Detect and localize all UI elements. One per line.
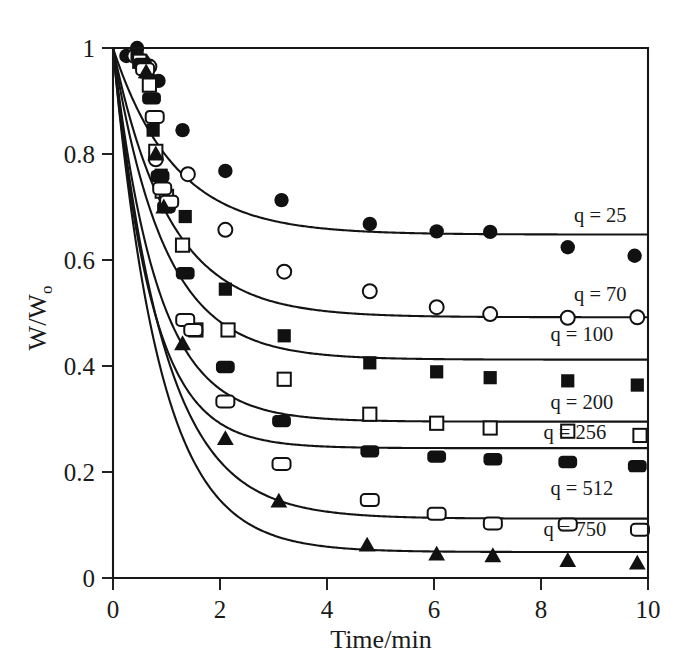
series-annotation-label: q = 200	[550, 391, 613, 414]
data-point-marker	[561, 374, 574, 387]
data-point-marker	[142, 92, 161, 104]
data-point-marker	[278, 373, 291, 386]
x-axis-tick-label: 0	[107, 596, 120, 623]
data-point-marker	[147, 124, 160, 137]
data-point-marker	[627, 249, 641, 263]
data-point-marker	[430, 417, 443, 430]
x-axis-title: Time/min	[330, 625, 432, 654]
data-point-marker	[151, 170, 170, 182]
data-point-marker	[217, 430, 234, 445]
data-point-marker	[278, 329, 291, 342]
y-axis-tick-label: 0.4	[64, 353, 96, 380]
svg-text:W/Wo: W/Wo	[23, 286, 56, 351]
data-point-marker	[428, 546, 445, 561]
x-axis-tick-label: 8	[535, 596, 548, 623]
series-label-layer: q = 25q = 70q = 100q = 200q = 256q = 512…	[543, 204, 626, 541]
data-point-marker	[484, 371, 497, 384]
x-axis-tick-label: 6	[428, 596, 441, 623]
data-point-marker	[558, 456, 577, 468]
y-axis-title-subscript: o	[37, 286, 56, 295]
series-annotation-label: q = 512	[550, 477, 613, 500]
data-point-marker	[360, 445, 379, 457]
data-point-marker	[272, 415, 291, 427]
data-point-marker	[561, 240, 575, 254]
y-axis-tick-label: 0	[83, 565, 96, 592]
figure-chart-weight-loss-vs-time: 00.20.40.60.810246810 q = 25q = 70q = 10…	[0, 0, 694, 670]
data-point-marker	[631, 378, 644, 391]
scatter-plot-canvas: 00.20.40.60.810246810 q = 25q = 70q = 10…	[0, 0, 694, 670]
data-point-marker	[428, 508, 446, 520]
data-point-marker	[483, 453, 502, 465]
data-point-marker	[484, 547, 501, 562]
data-point-marker	[146, 111, 164, 123]
data-point-marker	[361, 494, 379, 506]
data-point-marker	[181, 167, 195, 181]
data-point-marker	[184, 324, 202, 336]
data-point-marker	[216, 396, 234, 408]
data-point-marker	[633, 429, 646, 442]
data-point-marker	[631, 524, 649, 536]
data-point-marker	[153, 182, 171, 194]
data-point-marker	[143, 79, 156, 92]
data-point-marker	[175, 123, 189, 137]
series-markers-q-25	[119, 41, 642, 263]
data-point-marker	[218, 164, 232, 178]
data-point-marker	[359, 537, 376, 552]
data-point-marker	[630, 310, 644, 324]
data-point-marker	[628, 460, 647, 472]
data-point-marker	[270, 493, 287, 508]
x-axis-tick-label: 2	[214, 596, 227, 623]
data-point-marker	[218, 223, 232, 237]
y-axis-tick-label: 0.6	[64, 247, 95, 274]
series-markers-q-70	[127, 49, 644, 325]
data-point-marker	[483, 225, 497, 239]
data-point-marker	[179, 210, 192, 223]
data-point-marker	[273, 458, 291, 470]
data-point-marker	[559, 552, 576, 567]
data-point-marker	[363, 284, 377, 298]
data-point-marker	[427, 450, 446, 462]
data-point-marker	[221, 323, 234, 336]
series-annotation-label: q = 256	[543, 421, 606, 444]
data-point-marker	[219, 283, 232, 296]
y-axis-tick-label: 0.2	[64, 459, 95, 486]
data-point-marker	[430, 300, 444, 314]
data-point-marker	[484, 517, 502, 529]
data-point-marker	[363, 356, 376, 369]
data-point-marker	[430, 365, 443, 378]
y-axis-tick-label: 1	[83, 35, 96, 62]
x-axis-tick-label: 4	[321, 596, 334, 623]
series-annotation-label: q = 100	[550, 323, 613, 346]
data-point-marker	[176, 267, 195, 279]
data-point-marker	[174, 335, 191, 350]
y-axis-title-text: W/W	[23, 294, 52, 351]
x-axis-tick-label: 10	[636, 596, 661, 623]
fit-curve-q-25	[113, 48, 648, 235]
y-axis-tick-label: 0.8	[64, 141, 95, 168]
data-point-marker	[274, 193, 288, 207]
y-axis-title: W/Wo	[23, 286, 56, 351]
data-point-marker	[629, 555, 646, 570]
data-point-marker	[483, 307, 497, 321]
series-annotation-label: q = 25	[574, 204, 627, 227]
data-point-marker	[429, 224, 443, 238]
data-point-marker	[484, 421, 497, 434]
data-point-marker	[216, 361, 235, 373]
data-point-marker	[176, 239, 189, 252]
series-annotation-label: q = 750	[543, 518, 606, 541]
series-annotation-label: q = 70	[574, 283, 627, 306]
data-point-marker	[363, 408, 376, 421]
data-point-marker	[277, 265, 291, 279]
data-point-marker	[363, 217, 377, 231]
